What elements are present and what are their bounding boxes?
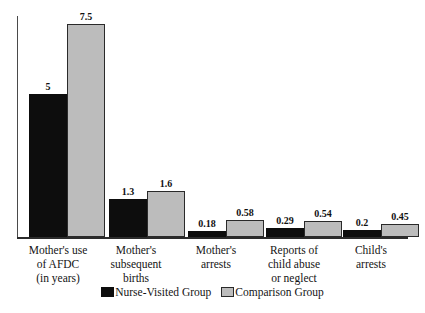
legend-label-comparison-group: Comparison Group [235,286,323,298]
legend-label-nurse-visited-group: Nurse-Visited Group [115,286,211,298]
bar-wrap-3-0: 0.29 [266,16,304,237]
bar-value-2-0: 0.18 [198,218,216,229]
bar-value-3-1: 0.54 [314,208,332,219]
bar-comparison-4[interactable] [381,224,419,237]
bar-group-0: 5 7.5 [25,16,109,237]
bar-group-1: 1.3 1.6 [105,16,189,237]
bar-group-3: 0.29 0.54 [262,16,346,237]
bar-value-1-1: 1.6 [160,178,173,189]
bar-nurse-2[interactable] [188,231,226,237]
legend-item-comparison-group[interactable]: Comparison Group [221,286,323,298]
bar-value-1-0: 1.3 [122,186,135,197]
bar-value-0-0: 5 [46,81,51,92]
bar-group-2: 0.18 0.58 [184,16,268,237]
nurse-swatch-icon [101,287,114,297]
bar-wrap-0-0: 5 [29,16,67,237]
bar-comparison-1[interactable] [147,191,185,237]
bar-group-4: 0.2 0.45 [339,16,423,237]
bar-wrap-1-1: 1.6 [147,16,185,237]
category-label-4: Child's arrests [323,243,419,271]
bar-wrap-2-0: 0.18 [188,16,226,237]
chart-legend: Nurse-Visited Group Comparison Group [0,286,425,298]
bar-value-3-0: 0.29 [276,215,294,226]
category-label-4-line-0: Child's [323,243,419,257]
plot-area: 5 7.5 1.3 1.6 [17,16,408,239]
bar-comparison-2[interactable] [226,220,264,237]
bar-nurse-3[interactable] [266,228,304,237]
bar-value-4-0: 0.2 [356,217,369,228]
bar-wrap-0-1: 7.5 [67,16,105,237]
bar-nurse-0[interactable] [29,94,67,237]
comparison-swatch-icon [221,287,234,297]
y-axis-line [17,16,18,238]
bar-value-2-1: 0.58 [236,207,254,218]
bar-nurse-1[interactable] [109,199,147,237]
bar-value-4-1: 0.45 [391,211,409,222]
bar-chart: 5 7.5 1.3 1.6 [0,0,425,313]
bar-wrap-3-1: 0.54 [304,16,342,237]
bar-wrap-1-0: 1.3 [109,16,147,237]
bar-value-0-1: 7.5 [80,11,93,22]
category-label-3-line-2: or neglect [244,271,344,285]
bar-comparison-0[interactable] [67,24,105,237]
x-axis-line [17,237,408,239]
bar-nurse-4[interactable] [343,230,381,237]
category-label-1-line-2: births [88,271,184,285]
category-label-4-line-1: arrests [323,257,419,271]
bar-wrap-2-1: 0.58 [226,16,264,237]
bar-comparison-3[interactable] [304,221,342,237]
bar-wrap-4-0: 0.2 [343,16,381,237]
legend-item-nurse-visited-group[interactable]: Nurse-Visited Group [101,286,211,298]
bar-wrap-4-1: 0.45 [381,16,419,237]
